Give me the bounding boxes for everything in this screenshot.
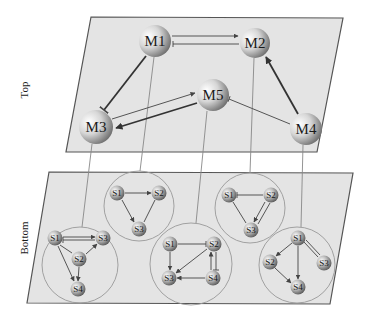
node-m4[interactable]: M4 — [290, 113, 322, 145]
subnode-s3[interactable]: S3 — [96, 231, 111, 246]
svg-text:S3: S3 — [164, 273, 174, 283]
svg-text:S1: S1 — [112, 188, 122, 198]
subnode-s4[interactable]: S4 — [71, 282, 86, 297]
node-m2[interactable]: M2 — [240, 28, 270, 58]
svg-text:S1: S1 — [293, 233, 303, 243]
svg-text:S3: S3 — [134, 224, 144, 234]
subnode-s1[interactable]: S1 — [163, 237, 178, 252]
svg-text:S2: S2 — [74, 254, 84, 264]
subnode-s1[interactable]: S1 — [222, 188, 237, 203]
svg-text:S3: S3 — [319, 258, 329, 268]
node-label: M2 — [245, 35, 266, 51]
svg-text:S4: S4 — [208, 273, 218, 283]
subnode-s3[interactable]: S3 — [317, 256, 332, 271]
svg-text:S4: S4 — [293, 282, 303, 292]
subnode-s3[interactable]: S3 — [162, 271, 177, 286]
svg-text:S2: S2 — [266, 190, 276, 200]
subnode-s3[interactable]: S3 — [244, 223, 259, 238]
node-label: M5 — [203, 87, 224, 103]
subnode-s2[interactable]: S2 — [72, 252, 87, 267]
svg-text:S1: S1 — [224, 190, 234, 200]
subnode-s1[interactable]: S1 — [291, 231, 306, 246]
svg-text:S3: S3 — [246, 225, 256, 235]
node-m1[interactable]: M1 — [139, 25, 171, 57]
node-label: M4 — [296, 121, 317, 137]
subnode-s4[interactable]: S4 — [206, 271, 221, 286]
svg-text:S3: S3 — [98, 233, 108, 243]
svg-text:S1: S1 — [50, 233, 60, 243]
subnode-s3[interactable]: S3 — [132, 222, 147, 237]
subnode-s2[interactable]: S2 — [207, 237, 222, 252]
node-m5[interactable]: M5 — [197, 79, 229, 111]
node-m3[interactable]: M3 — [79, 110, 113, 144]
svg-text:S2: S2 — [209, 239, 219, 249]
svg-text:S2: S2 — [265, 257, 275, 267]
subnode-s2[interactable]: S2 — [263, 255, 278, 270]
subnode-s1[interactable]: S1 — [48, 231, 63, 246]
svg-text:S1: S1 — [165, 239, 175, 249]
svg-text:S4: S4 — [73, 284, 83, 294]
node-label: M3 — [86, 119, 107, 135]
subnode-s1[interactable]: S1 — [110, 186, 125, 201]
svg-text:S2: S2 — [154, 188, 164, 198]
subnode-s4[interactable]: S4 — [291, 280, 306, 295]
node-label: M1 — [145, 33, 166, 49]
multilayer-network-diagram: Top Bottom M1 M2 M3 M4 M5 — [0, 0, 371, 319]
label-bottom: Bottom — [18, 221, 30, 254]
subnode-s2[interactable]: S2 — [152, 186, 167, 201]
label-top: Top — [18, 81, 30, 98]
subnode-s2[interactable]: S2 — [264, 188, 279, 203]
